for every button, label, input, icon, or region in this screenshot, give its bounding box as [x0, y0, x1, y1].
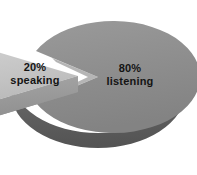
pie-chart: 20% speaking 80% listening	[0, 0, 197, 175]
pie-label-listening-percent: 80%	[92, 62, 168, 75]
pie-label-speaking-percent: 20%	[0, 61, 70, 74]
pie-label-speaking: 20% speaking	[0, 61, 70, 87]
pie-label-listening: 80% listening	[92, 62, 168, 88]
pie-label-speaking-name: speaking	[0, 74, 70, 87]
pie-label-listening-name: listening	[92, 75, 168, 88]
